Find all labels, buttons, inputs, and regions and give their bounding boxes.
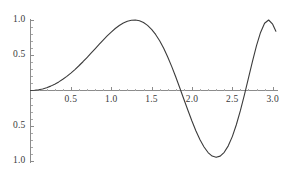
x-axis-major-ticks (72, 87, 274, 91)
x-tick-label-2.0: 2.0 (186, 95, 198, 105)
x-tick-label-0.5: 0.5 (65, 95, 77, 105)
plot-figure: 0.51.01.52.02.53.0 1.00.50.51.0 (0, 0, 284, 183)
x-tick-label-2.5: 2.5 (226, 95, 238, 105)
x-tick-label-1.0: 1.0 (105, 95, 117, 105)
plot-canvas (0, 0, 284, 183)
axes-group (31, 19, 279, 163)
y-tick-label-0: 1.0 (0, 15, 26, 25)
y-tick-label-2: 0.5 (0, 121, 26, 131)
y-tick-label-1: 0.5 (0, 51, 26, 61)
x-tick-label-1.5: 1.5 (145, 95, 157, 105)
y-tick-label-3: 1.0 (0, 156, 26, 166)
x-tick-label-3.0: 3.0 (266, 95, 278, 105)
data-series-curve (31, 20, 276, 157)
